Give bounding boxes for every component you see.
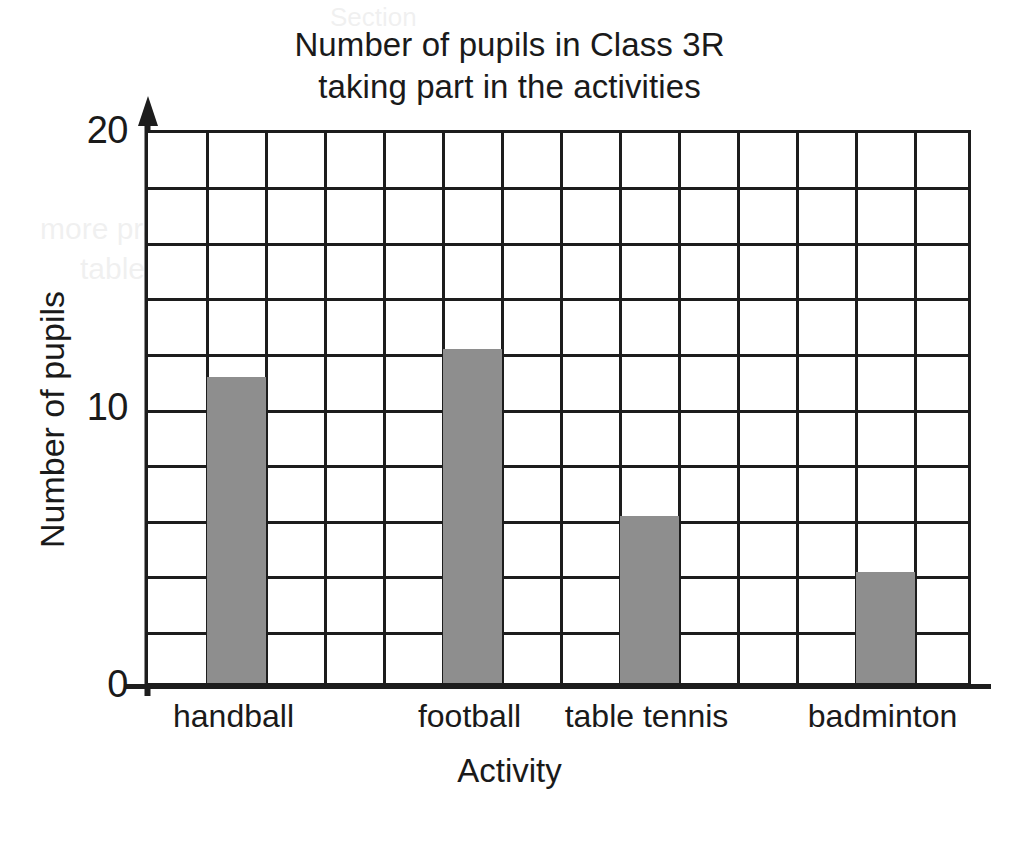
plot-area [145, 130, 971, 686]
bar-handball [207, 377, 266, 683]
x-axis-title: Activity [0, 752, 1019, 790]
bar-table-tennis [620, 516, 679, 683]
y-tick-label-20: 20 [8, 111, 128, 149]
y-axis-title: Number of pupils [33, 220, 72, 620]
bar-football [443, 349, 502, 683]
bars-group [148, 133, 968, 683]
bar-badminton [856, 572, 915, 683]
chart-title-line-1: Number of pupils in Class 3R [0, 24, 1019, 66]
x-tick-labels: handballfootballtable tennisbadminton [145, 695, 971, 745]
x-tick-label-badminton: badminton [743, 695, 1019, 737]
